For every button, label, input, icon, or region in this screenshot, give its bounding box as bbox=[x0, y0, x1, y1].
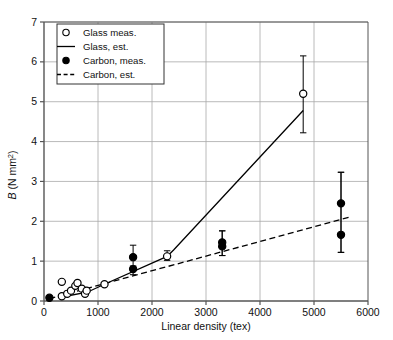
x-tick-label: 6000 bbox=[356, 306, 380, 318]
x-tick-label: 1000 bbox=[86, 306, 110, 318]
y-axis-paren: ) bbox=[6, 150, 18, 154]
glass-data-point bbox=[58, 278, 65, 285]
x-axis-title: Linear density (tex) bbox=[161, 320, 250, 332]
chart-legend: Glass meas.Glass, est.Carbon, meas.Carbo… bbox=[57, 24, 164, 84]
x-tick-label: 0 bbox=[41, 306, 47, 318]
y-tick-labels: 01234567 bbox=[31, 16, 37, 307]
scatter-plot: 0100020003000400050006000 01234567 Linea… bbox=[0, 0, 393, 340]
y-tick-label: 6 bbox=[31, 55, 37, 67]
svg-text:B (N mm2): B (N mm2) bbox=[6, 150, 19, 199]
carbon-data-point bbox=[337, 200, 344, 207]
y-tick-label: 5 bbox=[31, 95, 37, 107]
x-tick-label: 2000 bbox=[140, 306, 164, 318]
legend-label: Carbon, est. bbox=[83, 69, 135, 80]
y-axis-units: (N mm bbox=[6, 158, 18, 193]
carbon-data-point bbox=[337, 231, 344, 238]
y-axis-symbol: B bbox=[6, 193, 18, 200]
carbon-data-point bbox=[46, 294, 53, 301]
glass-data-point bbox=[101, 281, 108, 288]
y-axis-title: B (N mm2) bbox=[6, 150, 19, 199]
y-tick-label: 2 bbox=[31, 215, 37, 227]
carbon-data-point bbox=[219, 243, 226, 250]
y-tick-label: 1 bbox=[31, 255, 37, 267]
y-tick-label: 7 bbox=[31, 16, 37, 28]
y-tick-label: 4 bbox=[31, 135, 37, 147]
legend-label: Carbon, meas. bbox=[83, 55, 146, 66]
y-tick-label: 3 bbox=[31, 175, 37, 187]
legend-label: Glass, est. bbox=[83, 41, 128, 52]
glass-data-point bbox=[164, 253, 171, 260]
carbon-data-point bbox=[130, 266, 137, 273]
x-tick-label: 3000 bbox=[194, 306, 218, 318]
legend-marker-open-circle bbox=[63, 29, 69, 35]
carbon-data-point bbox=[130, 254, 137, 261]
legend-marker-filled-circle bbox=[63, 57, 69, 63]
y-tick-label: 0 bbox=[31, 295, 37, 307]
glass-data-point bbox=[300, 90, 307, 97]
x-tick-labels: 0100020003000400050006000 bbox=[41, 306, 380, 318]
glass-data-point bbox=[83, 287, 90, 294]
x-tick-label: 5000 bbox=[302, 306, 326, 318]
chart-figure: 0100020003000400050006000 01234567 Linea… bbox=[0, 0, 393, 340]
legend-label: Glass meas. bbox=[83, 27, 136, 38]
x-tick-label: 4000 bbox=[248, 306, 272, 318]
